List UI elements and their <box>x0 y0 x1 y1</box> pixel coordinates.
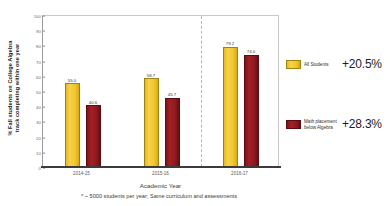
bar: 40.6 <box>86 105 101 167</box>
bar: 55.0 <box>65 83 80 167</box>
bar: 45.7 <box>165 98 180 167</box>
y-tick-mark <box>43 16 45 17</box>
y-tick-label: 70 <box>29 59 41 64</box>
bar: 58.7 <box>144 78 159 167</box>
delta-math-placement: +28.3% <box>342 118 382 131</box>
y-axis-label-line2: track completing within one year <box>14 40 21 135</box>
x-tick-label: 2016-17 <box>231 171 248 177</box>
x-axis-label: Academic Year <box>42 182 279 190</box>
y-tick-label: 10 <box>29 150 41 155</box>
bar-chart-figure: % Fall students on College Algebra track… <box>0 0 390 206</box>
y-tick-label: 80 <box>29 44 41 49</box>
legend-swatch-all-students <box>286 60 301 69</box>
y-tick-mark <box>43 152 45 153</box>
bar: 79.2 <box>223 47 238 167</box>
legend-label-math-placement-line2: below Algebra <box>304 125 333 130</box>
x-tick-label: 2015-16 <box>152 171 169 177</box>
y-tick-mark <box>43 61 45 62</box>
bar-value-label: 58.7 <box>147 73 156 78</box>
y-tick-mark <box>43 122 45 123</box>
y-tick-label: 90 <box>29 29 41 34</box>
y-tick-mark <box>43 107 45 108</box>
y-tick-label: 30 <box>29 120 41 125</box>
y-tick-label: 40 <box>29 105 41 110</box>
bar: 74.0 <box>244 55 259 167</box>
bar-value-label: 74.0 <box>247 49 256 54</box>
y-tick-mark <box>43 137 45 138</box>
bar-value-label: 55.0 <box>68 78 77 83</box>
y-tick-label: 100 <box>29 14 41 19</box>
y-tick-label: 0 <box>29 166 41 171</box>
legend-label-all-students: All Students <box>304 62 340 67</box>
y-tick-label: 60 <box>29 74 41 79</box>
y-tick-label: 50 <box>29 90 41 95</box>
legend-swatch-math-placement <box>286 120 301 129</box>
legend-item-all-students[interactable]: All Students +20.5% <box>286 58 382 71</box>
legend-item-math-placement[interactable]: Math placement below Algebra +28.3% <box>286 118 382 131</box>
x-tick-label: 2014-15 <box>73 171 90 177</box>
y-tick-mark <box>43 92 45 93</box>
x-axis-line <box>41 166 281 168</box>
bar-value-label: 79.2 <box>226 41 235 46</box>
group-separator-line <box>201 16 202 167</box>
y-tick-mark <box>43 31 45 32</box>
legend-label-math-placement: Math placement below Algebra <box>304 119 340 130</box>
plot-area: 010203040506070809010055.040.658.745.779… <box>42 15 279 167</box>
y-axis-label-line1: % Fall students on College Algebra <box>7 40 13 135</box>
y-tick-label: 20 <box>29 135 41 140</box>
y-axis-label: % Fall students on College Algebra track… <box>2 8 26 168</box>
bar-value-label: 45.7 <box>168 92 177 97</box>
chart-footnote: * ~ 5000 students per year; Same curricu… <box>28 193 290 200</box>
y-tick-mark <box>43 46 45 47</box>
y-tick-mark <box>43 76 45 77</box>
legend-label-math-placement-line1: Math placement <box>304 119 337 124</box>
bar-value-label: 40.6 <box>89 100 98 105</box>
delta-all-students: +20.5% <box>342 58 382 71</box>
